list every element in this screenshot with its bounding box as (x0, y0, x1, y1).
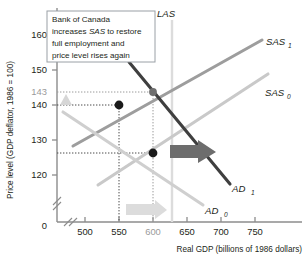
sas0-label-subscript: 0 (287, 93, 291, 100)
annotation-box: Bank of Canada increases SAS to restore … (47, 11, 155, 62)
y-tick-150: 150 (31, 64, 47, 75)
chart-svg: 160 150 143 140 130 120 0 500 550 600 65… (0, 0, 308, 263)
y-tick-120: 120 (31, 169, 47, 180)
y-tick-160: 160 (31, 29, 47, 40)
as-ad-chart: 160 150 143 140 130 120 0 500 550 600 65… (0, 0, 308, 263)
x-tick-600: 600 (145, 226, 161, 237)
x-tick-750: 750 (247, 226, 263, 237)
y-tick-140: 140 (31, 99, 47, 110)
annotation-line-2: increases SAS to restore (52, 27, 142, 36)
las-label: LAS (157, 8, 176, 19)
ad1-label-subscript: 1 (251, 189, 255, 196)
annotation-line-1: Bank of Canada (52, 15, 111, 24)
sas0-label: SAS (265, 87, 285, 98)
x-axis-title: Real GDP (billions of 1986 dollars) (177, 245, 303, 254)
ad0-label-subscript: 0 (224, 211, 228, 218)
annotation-line-3: full employment and (52, 39, 124, 48)
y-tick-143: 143 (31, 86, 47, 97)
x-tick-500: 500 (77, 226, 93, 237)
ad0-label: AD (204, 205, 218, 216)
sas1-label: SAS (266, 36, 286, 47)
sas1-label-subscript: 1 (288, 42, 292, 49)
ad1-label: AD (231, 183, 245, 194)
annotation-line-4: price level rises again (52, 51, 130, 60)
y-tick-zero: 0 (42, 220, 47, 231)
point-initial-equilibrium (149, 149, 158, 158)
x-tick-650: 650 (179, 226, 195, 237)
y-axis-title: Price level (GDP deflator, 1986 = 100) (6, 61, 15, 199)
y-tick-130: 130 (31, 134, 47, 145)
point-new-full-employment-equilibrium (149, 88, 157, 96)
x-tick-550: 550 (111, 226, 127, 237)
x-tick-700: 700 (213, 226, 229, 237)
point-equilibrium-above-full-employment (115, 101, 124, 110)
